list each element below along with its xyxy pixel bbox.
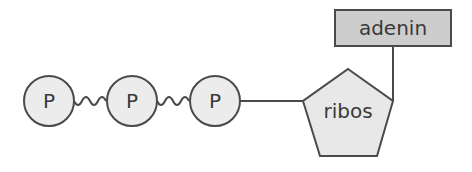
wavy-bond-p2-p3 — [157, 97, 189, 105]
adenine-label: adenin — [359, 16, 427, 40]
wavy-bond-p1-p2 — [74, 97, 106, 105]
phosphate-1: P — [24, 76, 74, 126]
ribose-label: ribos — [323, 99, 372, 123]
adenine-base: adenin — [335, 10, 451, 46]
atp-diagram: P P P ribos adenin — [0, 0, 472, 172]
phosphate-1-label: P — [43, 89, 55, 113]
atp-structure-figure: P P P ribos adenin — [0, 0, 472, 172]
ribose-sugar: ribos — [303, 69, 393, 156]
phosphate-2: P — [107, 76, 157, 126]
phosphate-2-label: P — [126, 89, 138, 113]
phosphate-3: P — [190, 76, 240, 126]
phosphate-3-label: P — [209, 89, 221, 113]
